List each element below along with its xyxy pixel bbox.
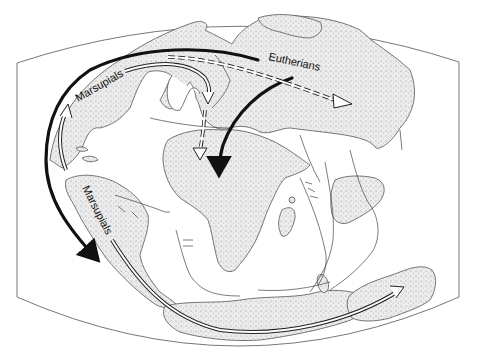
landmass-india: [331, 176, 384, 224]
landmass-madagascar: [279, 208, 295, 237]
map-canvas: Marsupials Eutherians Marsupials: [0, 0, 477, 353]
paleogeographic-map: Marsupials Eutherians Marsupials: [0, 0, 477, 353]
island-small: [289, 197, 295, 203]
landmass-africa: [163, 129, 310, 271]
island-2: [82, 156, 98, 161]
